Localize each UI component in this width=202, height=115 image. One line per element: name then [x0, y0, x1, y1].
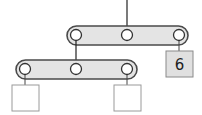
left-child-pointer-3: [122, 64, 133, 75]
root-pointer-1: [71, 30, 82, 41]
left-child-pointer-2: [71, 64, 82, 75]
root-pointer-3: [174, 30, 185, 41]
leaf-1: [12, 85, 39, 111]
root-pointer-2: [122, 30, 133, 41]
tree-diagram: 6: [0, 0, 202, 115]
leaf-2: [114, 85, 141, 111]
left-child-pointer-1: [20, 64, 31, 75]
leaf-3-label: 6: [175, 56, 185, 74]
